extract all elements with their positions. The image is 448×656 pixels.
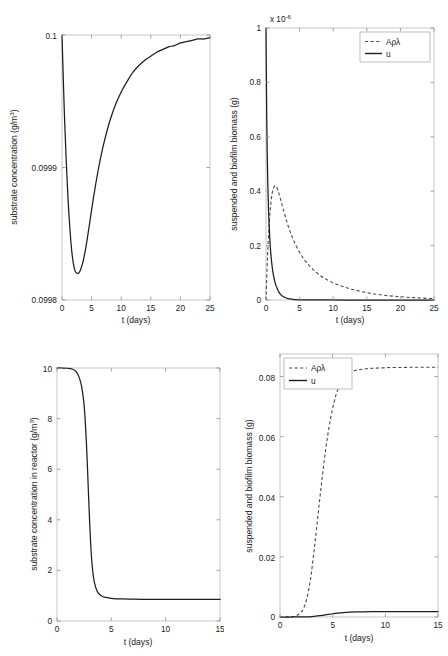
y-axis-label: suspended and biofilm biomass (g) [244, 419, 254, 552]
y-tick-label: 0.06 [259, 433, 276, 443]
figure-canvas: 0.0998 0.0999 0.1 0 5 10 15 20 25 t (day… [0, 0, 448, 656]
x-tick-label: 0 [55, 624, 60, 634]
legend-top-right[interactable]: Aρλ u [360, 32, 430, 62]
plot-top-right: x 10-6 0 0.2 0.4 0.6 0.8 1 0 5 10 15 20 … [224, 0, 448, 328]
y-tick-label: 0.4 [249, 186, 261, 196]
axes-top-right [266, 28, 434, 300]
ticks-top-right [266, 28, 434, 300]
plot-top-left: 0.0998 0.0999 0.1 0 5 10 15 20 25 t (day… [0, 0, 224, 328]
x-tick-label: 10 [381, 620, 391, 630]
subplot-bottom-right: 0 0.02 0.04 0.06 0.08 0 5 10 15 t (days)… [224, 328, 448, 656]
y-axis-label: substrate concentration (g/m3) [8, 109, 19, 224]
x-tick-label: 15 [146, 303, 156, 313]
x-tick-label: 10 [329, 303, 339, 313]
y-tick-label: 10 [43, 364, 53, 374]
x-tick-label: 5 [330, 620, 335, 630]
y-tick-label: 0.0998 [32, 295, 58, 305]
x-tick-label: 15 [362, 303, 372, 313]
x-tick-label: 20 [176, 303, 186, 313]
curve-group-bottom-left [57, 368, 220, 599]
y-tick-label: 0.02 [259, 553, 276, 563]
x-axis-label: t (days) [124, 637, 153, 647]
y-tick-label: 0.04 [259, 493, 276, 503]
y-tick-label: 1 [256, 23, 261, 33]
ticks-top-left [62, 35, 210, 300]
y-tick-label: 6 [47, 464, 52, 474]
ticks-bottom-left [57, 368, 220, 621]
x-tick-label: 10 [161, 624, 171, 634]
subplot-top-left: 0.0998 0.0999 0.1 0 5 10 15 20 25 t (day… [0, 0, 224, 328]
axis-frame [62, 35, 210, 300]
plot-bottom-left: 0 2 4 6 8 10 0 5 10 15 t (days) substrat… [0, 328, 224, 656]
x-tick-label: 0 [278, 620, 283, 630]
y-axis-label: suspended and biofilm biomass (g) [229, 97, 239, 230]
x-axis-label: t (days) [122, 315, 151, 325]
legend-bottom-right[interactable]: Aρλ u [284, 358, 352, 389]
y-tick-label: 0.6 [249, 132, 261, 142]
legend-label-u: u [386, 49, 391, 59]
y-tick-label: 0 [47, 616, 52, 626]
x-tick-label: 5 [89, 303, 94, 313]
x-tick-label: 5 [297, 303, 302, 313]
legend-label-u: u [311, 376, 316, 386]
y-tick-label: 0 [270, 612, 275, 622]
x-tick-label: 0 [60, 303, 65, 313]
y-tick-label: 4 [47, 515, 52, 525]
y-tick-label: 0.1 [45, 31, 57, 41]
y-tick-label: 0.2 [249, 241, 261, 251]
ticks-bottom-right [280, 354, 438, 617]
x-axis-label: t (days) [336, 315, 365, 325]
x-tick-label: 25 [429, 303, 439, 313]
axis-frame [280, 354, 438, 617]
curve-group-top-right [266, 28, 434, 300]
x-tick-label: 15 [215, 624, 224, 634]
axes-bottom-right [280, 354, 438, 617]
y-tick-label: 2 [47, 565, 52, 575]
axis-frame [266, 28, 434, 300]
plot-bottom-right: 0 0.02 0.04 0.06 0.08 0 5 10 15 t (days)… [224, 328, 448, 656]
x-tick-label: 5 [109, 624, 114, 634]
x-tick-label: 25 [205, 303, 215, 313]
legend-label-aplambda: Aρλ [311, 363, 326, 373]
x-axis-label: t (days) [345, 633, 374, 643]
data-curve [57, 368, 220, 599]
y-tick-label: 0.08 [259, 373, 276, 383]
curve-group-bottom-right [280, 367, 438, 617]
y-tick-label: 0.8 [249, 77, 261, 87]
y-exponent-label: x 10-6 [270, 13, 292, 25]
subplot-bottom-left: 0 2 4 6 8 10 0 5 10 15 t (days) substrat… [0, 328, 224, 656]
axis-frame [57, 368, 220, 621]
x-tick-label: 15 [433, 620, 443, 630]
y-tick-label: 0 [256, 295, 261, 305]
data-curve [266, 186, 434, 300]
y-tick-label: 8 [47, 414, 52, 424]
x-tick-label: 10 [117, 303, 127, 313]
curve-group-top-left [62, 35, 210, 274]
data-curve [280, 367, 438, 617]
x-tick-label: 0 [264, 303, 269, 313]
x-tick-label: 20 [396, 303, 406, 313]
axes-top-left [62, 35, 210, 300]
data-curve [62, 35, 210, 274]
legend-label-aplambda: Aρλ [386, 37, 401, 47]
data-curve [266, 28, 434, 300]
y-tick-label: 0.0999 [32, 163, 58, 173]
axes-bottom-left [57, 368, 220, 621]
data-curve [280, 612, 438, 617]
y-axis-label: substrate concentration in reactor (g/m3… [28, 417, 39, 571]
subplot-top-right: x 10-6 0 0.2 0.4 0.6 0.8 1 0 5 10 15 20 … [224, 0, 448, 328]
